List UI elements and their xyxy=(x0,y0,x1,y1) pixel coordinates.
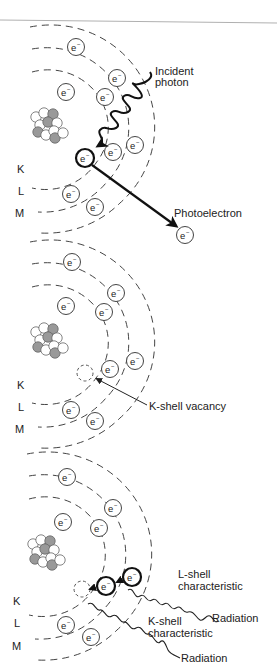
electron: e− xyxy=(91,520,108,537)
electrons: e− e− e− e− e− e− e− e− e− xyxy=(58,39,144,216)
l-shell-label-2: characteristic xyxy=(178,580,243,592)
svg-text:e: e xyxy=(101,581,106,592)
svg-text:−: − xyxy=(72,404,76,410)
svg-text:e: e xyxy=(61,620,66,631)
svg-text:−: − xyxy=(67,300,71,306)
svg-text:e: e xyxy=(105,364,110,375)
svg-text:−: − xyxy=(72,188,76,194)
electron: e− xyxy=(83,629,100,646)
svg-text:e: e xyxy=(127,572,132,583)
svg-text:−: − xyxy=(111,363,115,369)
nucleus xyxy=(28,535,65,570)
electron: e− xyxy=(105,500,122,517)
svg-text:−: − xyxy=(105,306,109,312)
svg-text:e: e xyxy=(108,147,113,158)
svg-text:−: − xyxy=(92,631,96,637)
electron: e− xyxy=(64,254,81,271)
svg-text:−: − xyxy=(86,152,90,158)
svg-text:−: − xyxy=(118,72,122,78)
incident-label-2: photon xyxy=(155,76,189,88)
k-shell-vacancy xyxy=(74,581,90,597)
panel-characteristic-radiation: K L M e− e− e− e− e− e− e− e− L-shell ch… xyxy=(12,452,258,664)
shell-label-m: M xyxy=(12,640,21,652)
svg-text:−: − xyxy=(107,580,111,586)
k-shell-label-3: Radiation xyxy=(181,652,227,664)
svg-text:−: − xyxy=(67,619,71,625)
electron: e− xyxy=(87,199,104,216)
svg-text:−: − xyxy=(136,355,140,361)
k-shell-label-2: characteristic xyxy=(148,627,213,639)
svg-text:−: − xyxy=(114,502,118,508)
shell-label-l: L xyxy=(14,617,20,629)
svg-text:−: − xyxy=(114,146,118,152)
svg-text:−: − xyxy=(64,516,68,522)
electron: e− xyxy=(55,514,72,531)
shell-labels: K L M xyxy=(15,379,25,435)
shell-label-k: K xyxy=(17,379,25,391)
nucleus xyxy=(31,108,68,143)
shell-label-m: M xyxy=(15,423,24,435)
photoelectric-diagram: K L M e− e− e− e− e− e− e− e− e− Inciden… xyxy=(0,0,277,667)
shell-labels: K L M xyxy=(15,163,25,219)
svg-text:−: − xyxy=(68,471,72,477)
panel-photoelectric-absorption: K L M e− e− e− e− e− e− e− e− e− Inciden… xyxy=(15,25,242,244)
svg-text:e: e xyxy=(111,288,116,299)
svg-text:−: − xyxy=(117,287,121,293)
electron: e− xyxy=(59,469,76,486)
svg-text:e: e xyxy=(130,140,135,151)
vacancy-pointer-arrow xyxy=(97,379,147,405)
electron: e− xyxy=(58,298,75,315)
photoelectron-label: Photoelectron xyxy=(174,207,242,219)
electron: e− xyxy=(102,361,119,378)
l-shell-label-1: L-shell xyxy=(178,568,210,580)
m-to-l-transition-arrow xyxy=(117,579,123,582)
electron: e− xyxy=(127,353,144,370)
l-to-k-electron: e− xyxy=(97,577,115,595)
svg-text:e: e xyxy=(130,356,135,367)
svg-text:e: e xyxy=(86,632,91,643)
shell-label-k: K xyxy=(17,163,25,175)
electron: e− xyxy=(63,402,80,419)
top-divider xyxy=(0,20,277,23)
svg-text:−: − xyxy=(100,522,104,528)
photoelectron: e− xyxy=(177,227,194,244)
m-to-l-electron: e− xyxy=(123,568,141,586)
electron: e− xyxy=(68,39,85,56)
svg-text:−: − xyxy=(106,91,110,97)
svg-text:e: e xyxy=(108,503,113,514)
shell-label-l: L xyxy=(18,185,24,197)
svg-text:−: − xyxy=(77,41,81,47)
electron: e− xyxy=(63,186,80,203)
svg-text:e: e xyxy=(90,202,95,213)
incident-photon-wave xyxy=(98,72,151,146)
svg-text:e: e xyxy=(100,92,105,103)
svg-text:e: e xyxy=(58,517,63,528)
svg-text:−: − xyxy=(96,201,100,207)
shell-labels: K L M xyxy=(12,595,21,652)
svg-text:e: e xyxy=(112,73,117,84)
svg-text:e: e xyxy=(71,42,76,53)
vacancy-label: K-shell vacancy xyxy=(149,400,227,412)
svg-text:−: − xyxy=(133,571,137,577)
svg-text:e: e xyxy=(66,189,71,200)
svg-text:−: − xyxy=(96,415,100,421)
electron: e− xyxy=(87,413,104,430)
svg-text:e: e xyxy=(99,307,104,318)
photoelectron-arrow xyxy=(92,165,176,226)
electron: e− xyxy=(109,70,126,87)
svg-text:e: e xyxy=(61,87,66,98)
electron: e− xyxy=(108,285,125,302)
electron: e− xyxy=(96,304,113,321)
shell-label-l: L xyxy=(18,401,24,413)
electron: e− xyxy=(105,144,122,161)
svg-text:−: − xyxy=(136,139,140,145)
shell-label-k: K xyxy=(13,595,21,607)
svg-text:e: e xyxy=(94,523,99,534)
svg-text:e: e xyxy=(66,405,71,416)
k-shell-vacancy xyxy=(77,365,93,381)
k-shell-electron-ejected: e− xyxy=(76,149,94,167)
nucleus xyxy=(31,323,68,358)
svg-text:e: e xyxy=(90,416,95,427)
shell-label-m: M xyxy=(15,207,24,219)
svg-text:e: e xyxy=(62,472,67,483)
